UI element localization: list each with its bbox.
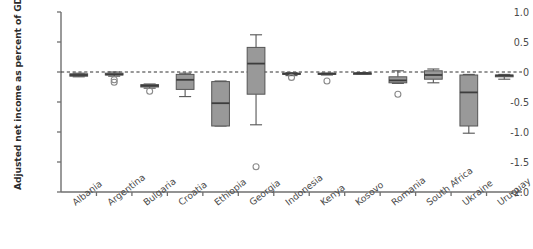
- y-tick-label: 0: [476, 67, 529, 78]
- y-tick-label: -1.5: [476, 157, 529, 168]
- boxplot-argentina: [105, 72, 123, 85]
- y-tick-label: 1.0: [476, 7, 529, 18]
- boxplot-bulgaria: [141, 84, 159, 94]
- outlier-point: [253, 164, 259, 170]
- boxplot-kenya: [318, 73, 336, 84]
- box-iqr: [176, 74, 194, 89]
- outlier-point: [324, 78, 330, 84]
- box-iqr: [460, 75, 478, 126]
- boxplot-indonesia: [283, 73, 301, 81]
- boxplot-ethiopia: [212, 81, 230, 126]
- outlier-point: [147, 88, 153, 94]
- boxplot-georgia: [247, 35, 265, 170]
- y-tick-label: 0.5: [476, 37, 529, 48]
- boxplot-albania: [70, 73, 88, 77]
- y-tick-label: -0.5: [476, 97, 529, 108]
- boxplot-romania: [389, 71, 407, 97]
- boxplot-ukraine: [460, 74, 478, 133]
- box-iqr: [247, 47, 265, 94]
- boxplot-south-africa: [424, 69, 442, 83]
- y-tick-label: -1.0: [476, 127, 529, 138]
- boxplot-croatia: [176, 73, 194, 96]
- outlier-point: [395, 91, 401, 97]
- boxplot-kosovo: [354, 73, 372, 75]
